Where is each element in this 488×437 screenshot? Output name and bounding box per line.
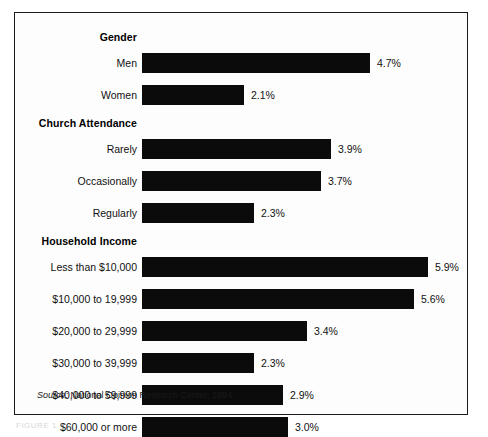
- bar-fill: [142, 321, 307, 341]
- bar: [142, 139, 331, 159]
- bar-value-label: 2.9%: [290, 385, 314, 405]
- bar-value-label: 2.3%: [261, 203, 285, 223]
- bar-value-label: 2.3%: [261, 353, 285, 373]
- bar-value-label: 3.4%: [314, 321, 338, 341]
- bar-category-label: Regularly: [15, 203, 137, 223]
- bar-category-label: $20,000 to 29,999: [15, 321, 137, 341]
- bar: [142, 53, 370, 73]
- source-value: National Opinion Research Center, 1994.: [68, 390, 235, 400]
- bar: [142, 321, 307, 341]
- bar: [142, 289, 414, 309]
- figure-frame: GenderMen4.7%Women2.1%Church AttendanceR…: [14, 12, 468, 415]
- bar-value-label: 5.9%: [435, 257, 459, 277]
- bar-category-label: Women: [15, 85, 137, 105]
- bar-value-label: 2.1%: [251, 85, 275, 105]
- bar-category-label: $10,000 to 19,999: [15, 289, 137, 309]
- bar-chart: GenderMen4.7%Women2.1%Church AttendanceR…: [15, 13, 467, 414]
- source-label: Source:: [37, 390, 68, 400]
- bar-category-label: Rarely: [15, 139, 137, 159]
- bar-fill: [142, 289, 414, 309]
- bar: [142, 257, 428, 277]
- bar-fill: [142, 85, 244, 105]
- bar-value-label: 3.9%: [338, 139, 362, 159]
- bar-category-label: Less than $10,000: [15, 257, 137, 277]
- group-header: Church Attendance: [15, 117, 137, 129]
- bar-value-label: 3.7%: [328, 171, 352, 191]
- bar-fill: [142, 171, 321, 191]
- bar-fill: [142, 417, 288, 437]
- bar-category-label: $30,000 to 39,999: [15, 353, 137, 373]
- bar: [142, 203, 254, 223]
- group-header: Household Income: [15, 235, 137, 247]
- bar-category-label: Occasionally: [15, 171, 137, 191]
- bar-value-label: 3.0%: [295, 417, 319, 437]
- bar: [142, 353, 254, 373]
- group-header: Gender: [15, 31, 137, 43]
- bar-fill: [142, 139, 331, 159]
- bar: [142, 417, 288, 437]
- bar: [142, 171, 321, 191]
- bar-fill: [142, 203, 254, 223]
- bar-fill: [142, 353, 254, 373]
- figure-caption-partial: FIGURE 1: [16, 421, 57, 430]
- bar: [142, 85, 244, 105]
- bar-category-label: Men: [15, 53, 137, 73]
- bar-fill: [142, 53, 370, 73]
- source-note: Source: National Opinion Research Center…: [37, 390, 235, 400]
- bar-value-label: 5.6%: [421, 289, 445, 309]
- bar-value-label: 4.7%: [377, 53, 401, 73]
- bar-fill: [142, 257, 428, 277]
